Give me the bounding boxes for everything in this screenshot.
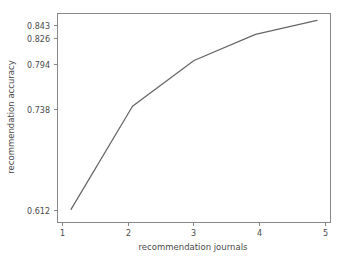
chart-figure: 0.612 0.738 0.794 0.826 0.843 1 2 3 4 5 … (0, 0, 343, 262)
x-tick-label-0: 1 (60, 229, 65, 238)
y-tick-label-3: 0.826 (27, 35, 50, 44)
y-axis-title: recommendation accuracy (6, 60, 16, 174)
x-tick-label-4: 5 (323, 229, 328, 238)
x-axis-title: recommendation journals (139, 242, 248, 252)
y-tick-label-1: 0.738 (27, 106, 50, 115)
line-chart: 0.612 0.738 0.794 0.826 0.843 1 2 3 4 5 … (0, 0, 343, 262)
x-tick-label-2: 3 (191, 229, 196, 238)
y-tick-label-2: 0.794 (27, 61, 50, 70)
y-tick-label-4: 0.843 (27, 22, 50, 31)
y-tick-label-0: 0.612 (27, 207, 50, 216)
chart-background (0, 0, 343, 262)
x-tick-label-1: 2 (126, 229, 131, 238)
x-tick-label-3: 4 (257, 229, 262, 238)
